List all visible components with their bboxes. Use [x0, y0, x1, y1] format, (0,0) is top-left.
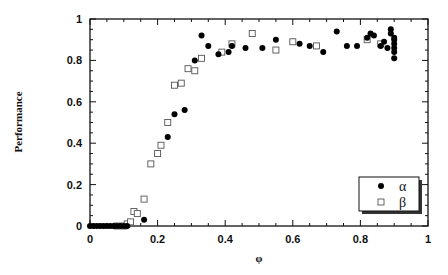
alpha-data-point — [297, 41, 303, 47]
alpha-data-point — [141, 217, 147, 223]
alpha-data-point — [334, 28, 340, 34]
y-axis-tick-labels: 00.20.40.60.81 — [67, 13, 83, 232]
beta-data-point — [199, 55, 205, 61]
x-tick-label: 0.6 — [285, 233, 300, 245]
alpha-data-point — [354, 43, 360, 49]
alpha-data-point — [384, 45, 390, 51]
y-tick-label: 0 — [76, 220, 82, 232]
alpha-data-point — [391, 49, 397, 55]
alpha-data-point — [344, 43, 350, 49]
y-tick-label: 0.4 — [67, 137, 83, 149]
beta-data-point — [158, 142, 164, 148]
alpha-data-point — [307, 43, 313, 49]
x-axis-tick-labels: 00.20.40.60.81 — [87, 233, 431, 245]
alpha-data-point — [259, 45, 265, 51]
legend-alpha-marker-icon — [378, 183, 384, 189]
y-tick-label: 0.2 — [67, 179, 82, 191]
alpha-data-point — [229, 43, 235, 49]
beta-data-point — [273, 47, 279, 53]
x-tick-label: 0 — [87, 233, 93, 245]
alpha-data-point — [215, 51, 221, 57]
alpha-data-point — [273, 37, 279, 43]
x-tick-label: 1 — [425, 233, 431, 245]
legend-beta-marker-icon — [378, 199, 384, 205]
beta-data-point — [165, 120, 171, 126]
series-alpha-markers — [87, 26, 397, 229]
beta-data-point — [192, 68, 198, 74]
x-tick-label: 0.2 — [150, 233, 165, 245]
beta-data-point — [148, 161, 154, 167]
x-axis-title: φ — [256, 252, 263, 264]
x-tick-label: 0.4 — [218, 233, 234, 245]
y-tick-label: 0.8 — [67, 54, 82, 66]
alpha-data-point — [205, 43, 211, 49]
y-tick-label: 0.6 — [67, 96, 82, 108]
alpha-data-point — [371, 33, 377, 39]
alpha-data-point — [182, 107, 188, 113]
legend-alpha-label: α — [399, 179, 407, 194]
alpha-data-point — [199, 33, 205, 39]
alpha-data-point — [165, 134, 171, 140]
y-axis-title: Performance — [12, 91, 24, 152]
alpha-data-point — [391, 55, 397, 61]
beta-data-point — [290, 39, 296, 45]
beta-data-point — [134, 211, 140, 217]
scatter-chart: 00.20.40.60.81 00.20.40.60.81 φ Performa… — [0, 0, 448, 275]
legend: α β — [359, 177, 422, 214]
y-tick-label: 1 — [76, 13, 82, 25]
alpha-data-point — [242, 45, 248, 51]
beta-data-point — [155, 151, 161, 157]
alpha-data-point — [320, 49, 326, 55]
beta-data-point — [313, 43, 319, 49]
x-tick-label: 0.8 — [353, 233, 368, 245]
series-beta-markers — [114, 30, 384, 229]
beta-data-point — [249, 30, 255, 36]
beta-data-point — [141, 196, 147, 202]
alpha-data-point — [192, 57, 198, 63]
beta-data-point — [185, 66, 191, 72]
alpha-data-point — [124, 223, 130, 229]
alpha-data-point — [381, 39, 387, 45]
beta-data-point — [172, 82, 178, 88]
legend-beta-label: β — [399, 195, 406, 210]
alpha-data-point — [172, 111, 178, 117]
alpha-data-point — [226, 49, 232, 55]
beta-data-point — [178, 80, 184, 86]
